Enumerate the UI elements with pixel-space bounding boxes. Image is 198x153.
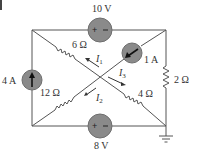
wire-diag-a3 [143, 106, 166, 126]
label-8v: 8 V [94, 141, 109, 151]
label-i3: I3 [119, 68, 126, 81]
i3-subscript: 3 [122, 72, 126, 80]
resistor-12ohm [55, 97, 74, 110]
label-4ohm: 4 Ω [138, 89, 153, 99]
plus-sign: + [92, 25, 97, 35]
circuit-schematic: + + [0, 0, 198, 153]
circuit-diagram: + + 10 V 8 V [0, 0, 198, 153]
resistor-2ohm [163, 66, 169, 88]
current-source-1a [122, 43, 142, 63]
i2-subscript: 2 [99, 97, 103, 105]
wire-diag-b1 [32, 110, 55, 126]
label-12ohm: 12 Ω [40, 88, 60, 98]
arrow-i2-icon [86, 88, 96, 95]
label-i2: I2 [96, 93, 103, 106]
plus-sign: + [92, 121, 97, 131]
voltage-source-10v: + [88, 18, 112, 42]
wire-diag-b3 [141, 30, 166, 46]
label-2ohm: 2 Ω [174, 75, 189, 85]
current-source-4a [22, 70, 42, 90]
label-1a: 1 A [144, 55, 158, 65]
i1-subscript: 1 [99, 58, 103, 66]
label-4a: 4 A [2, 76, 16, 86]
label-10v: 10 V [92, 4, 112, 14]
label-6ohm: 6 Ω [72, 40, 87, 50]
edge-mark [0, 0, 2, 10]
label-i1: I1 [96, 54, 103, 67]
voltage-source-8v: + [88, 114, 112, 138]
wire-diag-a1 [32, 30, 56, 47]
